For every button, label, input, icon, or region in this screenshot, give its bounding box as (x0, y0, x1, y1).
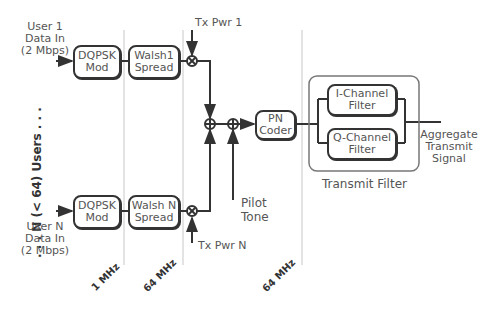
adder-pilot (228, 119, 238, 129)
user1-input-label: User 1 Data In (2 Mbps) (20, 21, 70, 57)
userN-dqpsk-mod-block: DQPSK Mod (73, 195, 121, 229)
q-channel-filter-block: Q-Channel Filter (327, 128, 397, 160)
multiplier-1 (187, 56, 197, 66)
userN-walsh-spread-block: Walsh N Spread (128, 195, 180, 229)
userN-tx-power-label: Tx Pwr N (198, 240, 247, 252)
transmit-filter-title: Transmit Filter (322, 178, 407, 190)
user1-walsh-spread-block: Walsh1 Spread (128, 45, 180, 79)
aggregate-output-label: Aggregate Transmit Signal (420, 129, 478, 165)
cdma-transmitter-diagram: . . . N (< 64) Users . . . User 1 Data I… (0, 0, 490, 324)
pilot-tone-label: Pilot Tone (241, 196, 269, 224)
multiplier-n (187, 206, 197, 216)
userN-input-label: User N Data In (2 Mbps) (20, 221, 70, 257)
adder-users (205, 119, 215, 129)
i-channel-filter-block: I-Channel Filter (327, 84, 397, 116)
pn-coder-block: PN Coder (255, 110, 296, 140)
user1-tx-power-label: Tx Pwr 1 (195, 17, 242, 29)
user1-dqpsk-mod-block: DQPSK Mod (73, 45, 121, 79)
